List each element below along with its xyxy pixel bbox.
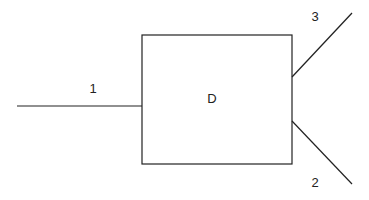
stream-2-line <box>292 121 352 184</box>
stream-2-label: 2 <box>311 175 318 190</box>
stream-1-label: 1 <box>89 81 96 96</box>
stream-3-line <box>292 13 352 77</box>
stream-3-label: 3 <box>311 9 318 24</box>
diagram-svg: D 1 3 2 <box>0 0 369 200</box>
unit-d-box <box>142 35 292 164</box>
process-diagram: D 1 3 2 <box>0 0 369 200</box>
unit-label: D <box>207 91 216 106</box>
